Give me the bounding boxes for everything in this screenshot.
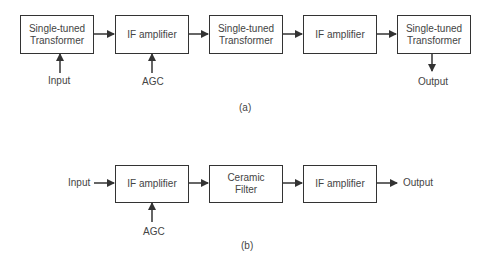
caption-a: (a) [239, 102, 251, 113]
agc-label-b: AGC [143, 226, 165, 237]
caption-b: (b) [241, 240, 253, 251]
output-label-b: Output [403, 177, 433, 188]
block-single-tuned-transformer-3: Single-tuned Transformer [397, 15, 471, 54]
block-if-amplifier-b1: IF amplifier [115, 165, 189, 203]
input-label-b: Input [68, 177, 90, 188]
output-label-a: Output [418, 76, 448, 87]
block-ceramic-filter: Ceramic Filter [209, 165, 283, 203]
block-single-tuned-transformer-2: Single-tuned Transformer [209, 15, 283, 54]
agc-label-a: AGC [142, 76, 164, 87]
block-if-amplifier-2: IF amplifier [303, 15, 377, 54]
input-label-a: Input [48, 75, 70, 86]
block-single-tuned-transformer-1: Single-tuned Transformer [20, 15, 94, 54]
block-if-amplifier-b2: IF amplifier [303, 165, 377, 203]
block-if-amplifier-1: IF amplifier [115, 15, 189, 54]
